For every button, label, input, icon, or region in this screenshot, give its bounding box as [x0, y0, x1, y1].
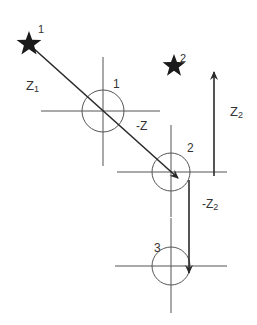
station-1-label: 1 — [113, 77, 120, 91]
station-2-label: 2 — [187, 141, 194, 155]
z1-vector — [32, 47, 178, 178]
station-3-label: 3 — [154, 241, 161, 255]
star-1-label: 1 — [38, 23, 44, 35]
star-2-label: 2 — [180, 52, 186, 64]
z1-label: Z1 — [26, 78, 39, 94]
z2-label: Z2 — [230, 104, 243, 120]
neg-z-label: -Z — [136, 119, 147, 133]
neg-z2-label: -Z2 — [202, 197, 218, 212]
diagram-canvas: 1 2 3 1 2 Z1 -Z Z2 -Z2 — [0, 0, 257, 325]
station-1-crosshair — [41, 57, 160, 166]
station-3-crosshair — [115, 218, 227, 313]
